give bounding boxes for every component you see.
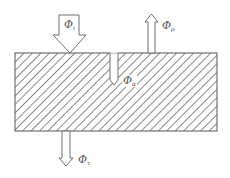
reflected-flux-label: Φρ	[162, 20, 175, 32]
absorbed-flux-arrow-icon	[110, 54, 118, 85]
absorbed-flux-label: Φα	[122, 75, 137, 87]
reflected-flux-arrow-icon	[145, 14, 158, 53]
transmitted-flux-label: Φτ	[78, 154, 90, 166]
transmitted-flux-arrow-icon	[59, 131, 73, 166]
flux-diagram	[0, 0, 230, 178]
incident-flux-label: Φi	[64, 19, 75, 31]
